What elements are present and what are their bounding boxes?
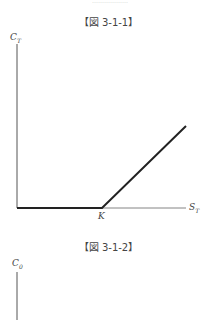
figure-2-y-axis-label: C0 — [12, 258, 23, 270]
figure-1-x-axis-label: ST — [189, 202, 199, 214]
strike-k-label: K — [98, 211, 105, 221]
figure-1-plot — [0, 0, 217, 320]
figure-2-title: 【図 3-1-2】 — [0, 239, 217, 254]
